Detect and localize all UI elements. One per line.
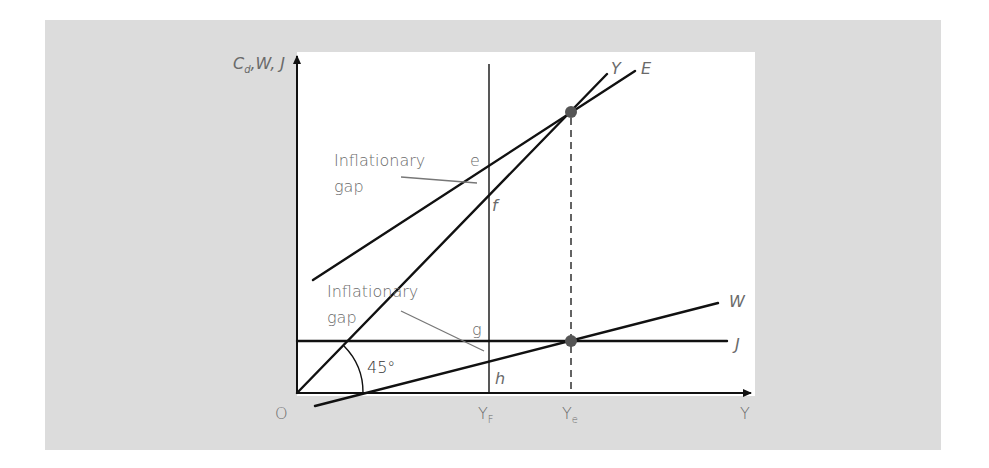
yf-label: YF <box>478 404 494 425</box>
point-e-label: e <box>470 151 480 170</box>
point-f-label: f <box>492 196 500 215</box>
injections-line-label: J <box>732 335 740 354</box>
equilibrium-dot-upper <box>565 106 577 118</box>
expenditure-line-label: E <box>641 59 652 78</box>
x-axis-label: Y <box>740 404 750 423</box>
withdrawals-line-label: W <box>729 292 746 311</box>
angle-label: 45° <box>367 358 395 377</box>
forty-five-degree-line <box>297 74 607 393</box>
angle-arc <box>344 346 363 393</box>
y-axis-label: Cd,W, J <box>233 54 285 75</box>
point-h-label: h <box>495 369 505 388</box>
point-g-label: g <box>472 320 482 339</box>
lower-gap-label-line2: gap <box>327 308 357 327</box>
ye-label: Ye <box>562 404 578 425</box>
origin-label: O <box>275 404 288 423</box>
withdrawals-line <box>315 303 718 406</box>
inflationary-gap-diagram: Cd,W, J Y E W J e f g h Inflationary gap… <box>0 0 989 468</box>
lower-gap-label-line1: Inflationary <box>327 282 418 301</box>
equilibrium-dot-lower <box>565 335 577 347</box>
forty-five-line-label: Y <box>611 59 622 78</box>
upper-gap-label-line1: Inflationary <box>334 151 425 170</box>
upper-gap-label-line2: gap <box>334 177 364 196</box>
expenditure-line <box>313 71 635 280</box>
